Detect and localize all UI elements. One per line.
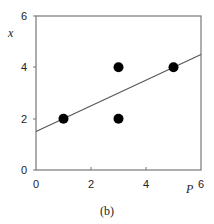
x-axis-label: P — [185, 182, 194, 196]
x-tick-label: 2 — [88, 178, 94, 190]
data-point — [114, 114, 124, 124]
y-tick-label: 0 — [21, 164, 27, 176]
y-tick-labels: 0246 — [21, 10, 27, 176]
data-point — [169, 62, 179, 72]
y-tick-label: 6 — [21, 10, 27, 22]
data-point — [114, 62, 124, 72]
x-tick-label: 6 — [198, 178, 204, 190]
figure-caption: (b) — [100, 204, 114, 218]
y-tick-label: 4 — [21, 61, 27, 73]
scatter-chart: 0246 0246 P x (b) — [0, 0, 214, 224]
y-tick-label: 2 — [21, 113, 27, 125]
x-tick-labels: 0246 — [33, 178, 204, 190]
x-tick-label: 0 — [33, 178, 39, 190]
data-point — [59, 114, 69, 124]
x-tick-label: 4 — [143, 178, 149, 190]
y-axis-label: x — [7, 26, 14, 40]
